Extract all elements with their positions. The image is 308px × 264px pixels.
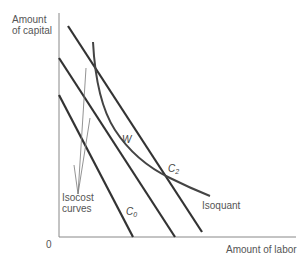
origin-label: 0 (46, 239, 52, 250)
c2-subscript: 2 (175, 168, 179, 175)
isocost-label-line1: Isocost (62, 192, 94, 203)
isoquant-diagram (0, 0, 308, 264)
isoquant-label: Isoquant (202, 200, 240, 211)
isocost-pointer-3 (74, 165, 78, 194)
y-axis-label-line2: of capital (12, 25, 52, 36)
y-axis-label-line1: Amount (12, 14, 52, 25)
isocost-label: Isocost curves (62, 192, 94, 214)
c0-label: C0 (126, 206, 137, 220)
x-axis-label: Amount of labor (226, 244, 297, 255)
isocost-pointer-2 (78, 68, 86, 194)
isoquant-curve (93, 42, 210, 196)
tangent-point-label: W (122, 134, 131, 145)
c0-subscript: 0 (133, 211, 137, 218)
isocost-pointer-1 (78, 118, 90, 194)
c2-label: C2 (168, 163, 179, 177)
y-axis-label: Amount of capital (12, 14, 52, 36)
isocost-label-line2: curves (62, 203, 94, 214)
